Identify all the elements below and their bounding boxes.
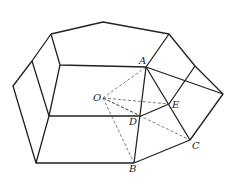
label-c: C <box>192 141 200 151</box>
label-d: D <box>129 117 137 127</box>
label-a: A <box>139 56 146 66</box>
geometry-diagram: A O E D C B <box>0 0 234 185</box>
label-o: O <box>93 93 101 103</box>
label-e: E <box>172 100 179 110</box>
figure-lines <box>0 0 234 185</box>
label-b: B <box>129 164 136 174</box>
